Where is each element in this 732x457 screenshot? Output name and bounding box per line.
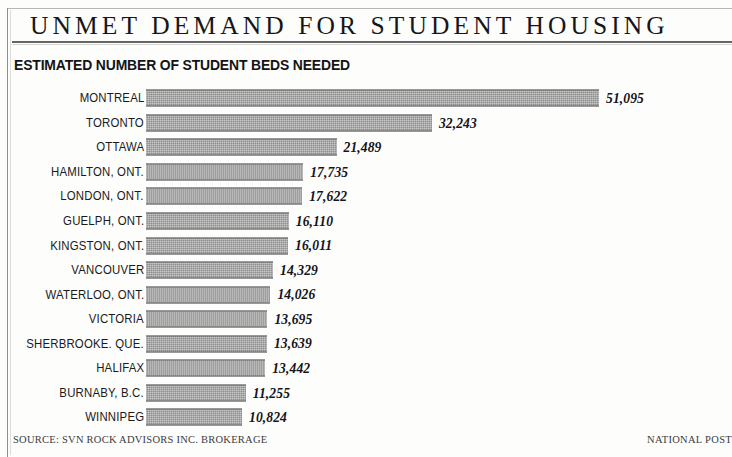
bar-and-value: 32,243 [146, 114, 477, 131]
bar-value-label: 17,735 [310, 165, 348, 179]
bar-row: GUELPH, ONT.16,110 [0, 209, 732, 234]
bar-category-label: TORONTO [86, 116, 144, 130]
bar-segment [146, 90, 599, 107]
bar-category-label: KINGSTON, ONT. [50, 239, 144, 253]
bar-category-label: SHERBROOKE. QUE. [26, 337, 144, 351]
bar-value-label: 10,824 [249, 411, 287, 425]
bar-and-value: 21,489 [146, 139, 381, 156]
bar-category-label: WINNIPEG [85, 410, 144, 424]
title-band: UNMET DEMAND FOR STUDENT HOUSING [12, 10, 732, 41]
bar-segment [146, 409, 242, 426]
title-divider [12, 41, 732, 43]
bar-value-label: 21,489 [344, 141, 382, 155]
bar-value-label: 32,243 [439, 116, 477, 130]
bar-category-label: WATERLOO, ONT. [45, 288, 144, 302]
bar-and-value: 14,026 [146, 286, 315, 303]
bar-segment [146, 262, 273, 279]
bar-value-label: 11,255 [253, 386, 290, 400]
publisher-credit: NATIONAL POST [647, 434, 732, 445]
bar-value-label: 13,442 [272, 361, 310, 375]
bar-row: VANCOUVER14,329 [0, 258, 732, 283]
bar-value-label: 13,695 [274, 312, 312, 326]
bar-category-label: VANCOUVER [71, 263, 144, 277]
bar-value-label: 14,026 [277, 288, 315, 302]
chart-footer: SOURCE: SVN ROCK ADVISORS INC. BROKERAGE… [0, 432, 732, 457]
bar-row: OTTAWA21,489 [0, 135, 732, 160]
bar-category-label: GUELPH, ONT. [63, 214, 144, 228]
bar-and-value: 13,695 [146, 311, 312, 328]
bar-and-value: 17,622 [146, 188, 347, 205]
bar-and-value: 16,011 [146, 237, 332, 254]
bar-row: MONTREAL51,095 [0, 86, 732, 111]
bar-category-label: LONDON, ONT. [61, 189, 144, 203]
bar-segment [146, 188, 302, 205]
bar-and-value: 17,735 [146, 163, 348, 180]
bar-segment [146, 360, 265, 377]
bar-segment [146, 163, 303, 180]
bar-category-label: VICTORIA [89, 312, 144, 326]
bar-value-label: 16,011 [295, 239, 332, 253]
bar-segment [146, 213, 289, 230]
bar-and-value: 11,255 [146, 384, 290, 401]
bar-value-label: 13,639 [274, 337, 312, 351]
bar-row: TORONTO32,243 [0, 111, 732, 136]
bar-segment [146, 286, 270, 303]
bar-category-label: MONTREAL [79, 91, 144, 105]
bar-segment [146, 311, 267, 328]
bar-and-value: 10,824 [146, 409, 287, 426]
bar-row: WATERLOO, ONT.14,026 [0, 282, 732, 307]
bar-category-label: BURNABY, B.C. [59, 386, 144, 400]
bar-segment [146, 335, 267, 352]
bar-segment [146, 384, 246, 401]
bar-and-value: 14,329 [146, 262, 318, 279]
bar-and-value: 13,639 [146, 335, 312, 352]
bar-row: HALIFAX13,442 [0, 356, 732, 381]
title-divider-shadow [12, 44, 732, 45]
bar-row: BURNABY, B.C.11,255 [0, 381, 732, 406]
bar-segment [146, 139, 337, 156]
bar-row: VICTORIA13,695 [0, 307, 732, 332]
bar-and-value: 51,095 [146, 90, 644, 107]
bar-category-label: HAMILTON, ONT. [51, 165, 144, 179]
bar-value-label: 14,329 [280, 263, 318, 277]
source-note: SOURCE: SVN ROCK ADVISORS INC. BROKERAGE [13, 434, 267, 445]
bar-value-label: 51,095 [606, 91, 644, 105]
bar-value-label: 17,622 [309, 190, 347, 204]
bar-category-label: OTTAWA [96, 140, 144, 154]
page-title: UNMET DEMAND FOR STUDENT HOUSING [12, 13, 669, 39]
bar-segment [146, 237, 288, 254]
bar-category-label: HALIFAX [96, 361, 144, 375]
infographic-panel: UNMET DEMAND FOR STUDENT HOUSING ESTIMAT… [0, 0, 732, 457]
bar-segment [146, 114, 432, 131]
bar-row: SHERBROOKE. QUE.13,639 [0, 331, 732, 356]
bar-row: WINNIPEG10,824 [0, 405, 732, 430]
bar-row: KINGSTON, ONT.16,011 [0, 233, 732, 258]
bar-and-value: 13,442 [146, 360, 310, 377]
bar-chart: MONTREAL51,095TORONTO32,243OTTAWA21,489H… [0, 86, 732, 426]
chart-subtitle: ESTIMATED NUMBER OF STUDENT BEDS NEEDED [14, 57, 350, 73]
bar-and-value: 16,110 [146, 213, 333, 230]
bar-row: LONDON, ONT.17,622 [0, 184, 732, 209]
bar-value-label: 16,110 [296, 214, 333, 228]
frame-border-top [7, 8, 732, 9]
bar-row: HAMILTON, ONT.17,735 [0, 160, 732, 185]
